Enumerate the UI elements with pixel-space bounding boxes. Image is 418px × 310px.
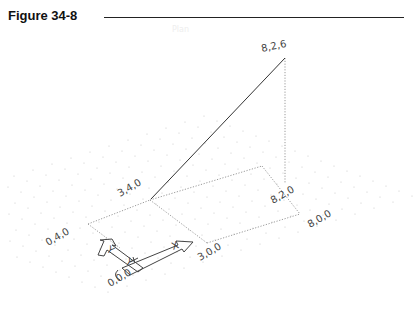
grid-dot [264,205,265,206]
grid-dot [72,211,73,212]
grid-dot [258,216,259,217]
grid-dot [66,222,67,223]
grid-dot [26,180,27,181]
grid-dot [68,276,69,277]
grid-dot [89,151,90,152]
grid-dot [320,160,321,161]
grid-dot [173,170,174,171]
grid-dot [263,178,264,179]
grid-dot [236,141,237,142]
grid-dot [47,228,48,229]
grid-dot [164,273,165,274]
grid-dot [46,201,47,202]
grid-dot [90,178,91,179]
grid-dot [107,291,108,292]
grid-dot [239,222,240,223]
grid-dot [366,191,367,192]
grid-dot [327,176,328,177]
grid-dot [15,229,16,230]
grid-dot [219,201,220,202]
grid-dot [86,243,87,244]
grid-dot [156,230,157,231]
grid-dot [151,268,152,269]
grid-dot [93,259,94,260]
grid-dot [302,193,303,194]
grid-dot [373,207,374,208]
grid-dot [398,190,399,191]
grid-dot [392,201,393,202]
grid-dot [166,154,167,155]
grid-dot [157,257,158,258]
grid-dot [103,183,104,184]
grid-dot [275,156,276,157]
grid-dot [201,234,202,235]
grid-dot [8,213,9,214]
grid-dot [145,279,146,280]
grid-dot [231,179,232,180]
grid-dot [221,255,222,256]
line-340-to-300 [150,200,207,243]
grid-dot [187,202,188,203]
grid-dot [148,187,149,188]
grid-dot [284,226,285,227]
grid-dot [379,196,380,197]
grid-dot [28,234,29,235]
grid-dot [9,240,10,241]
grid-dot [91,205,92,206]
grid-dot [109,172,110,173]
grid-dot [294,150,295,151]
grid-dot [195,245,196,246]
grid-dot [242,130,243,131]
grid-dot [278,237,279,238]
grid-dot [185,148,186,149]
grid-dot [186,175,187,176]
grid-dot [174,197,175,198]
grid-dot [162,219,163,220]
grid-dot [175,224,176,225]
grid-dot [303,220,304,221]
grid-dot [165,127,166,128]
grid-dot [159,138,160,139]
grid-dot [181,213,182,214]
grid-dot [315,198,316,199]
grid-dot [48,255,49,256]
grid-dot [341,208,342,209]
grid-dot [184,121,185,122]
grid-dot [58,179,59,180]
grid-dot [117,215,118,216]
grid-dot [70,157,71,158]
grid-dot [110,199,111,200]
grid-dot [268,140,269,141]
grid-dot [78,200,79,201]
grid-dot [193,191,194,192]
grid-dot [354,213,355,214]
grid-dot [118,242,119,243]
grid-dot [64,168,65,169]
grid-dot [232,206,233,207]
grid-dot [100,275,101,276]
grid-dot [178,132,179,133]
grid-dot [197,126,198,127]
grid-dot [144,252,145,253]
grid-dot [212,185,213,186]
grid-dot [179,159,180,160]
grid-dot [51,163,52,164]
grid-dot [41,239,42,240]
construction-lines [88,58,300,248]
grid-dot [98,221,99,222]
isometric-drawing: Plan Y Y X 8,2,6 3,4,0 8,2,0 8,0,0 3,0,0… [0,0,418,310]
grid-dot [372,180,373,181]
grid-dot [42,266,43,267]
grid-dot [328,203,329,204]
grid-dot [288,161,289,162]
grid-dot [137,236,138,237]
grid-dot [385,185,386,186]
grid-dot [255,135,256,136]
ucs-y-label: Y [104,243,117,257]
grid-dot [134,155,135,156]
grid-dot [169,235,170,236]
grid-dot [27,207,28,208]
grid-dot [216,120,217,121]
grid-dot [71,184,72,185]
grid-dot [237,168,238,169]
